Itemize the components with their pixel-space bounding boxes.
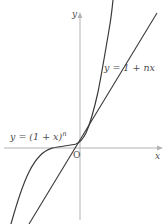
- x-axis-arrow-icon: [157, 146, 163, 151]
- y-axis-arrow-icon: [78, 12, 83, 18]
- plot-canvas: [0, 0, 167, 224]
- curve-equation-label: y = (1 + x)n: [10, 132, 67, 142]
- curve-1-plus-x-pow-n: [11, 0, 113, 224]
- bernoulli-inequality-figure: y = (1 + x)n y = 1 + nx O y x: [0, 0, 167, 224]
- line-1-plus-nx: [29, 13, 157, 224]
- y-axis-label: y: [72, 10, 77, 19]
- curve-equation-exponent: n: [62, 130, 66, 138]
- curve-equation-text: y = (1 + x): [10, 131, 62, 142]
- line-equation-label: y = 1 + nx: [104, 63, 155, 73]
- x-axis-label: x: [155, 152, 160, 161]
- origin-label: O: [73, 151, 80, 160]
